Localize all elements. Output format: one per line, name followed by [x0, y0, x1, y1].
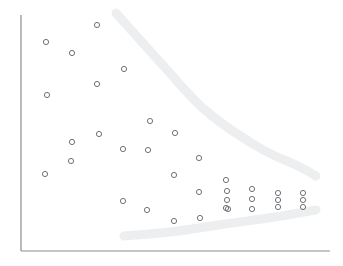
- data-point: [68, 158, 73, 163]
- data-point: [94, 81, 99, 86]
- data-point: [96, 131, 101, 136]
- data-point: [275, 204, 280, 209]
- data-point: [69, 50, 74, 55]
- data-point: [223, 177, 228, 182]
- data-point: [172, 130, 177, 135]
- data-point: [197, 215, 202, 220]
- data-point: [249, 206, 254, 211]
- data-point: [275, 197, 280, 202]
- data-point: [69, 139, 74, 144]
- lower-envelope: [124, 210, 316, 236]
- data-point: [120, 198, 125, 203]
- data-point: [196, 155, 201, 160]
- data-point: [171, 218, 176, 223]
- data-point: [300, 190, 305, 195]
- data-point: [300, 197, 305, 202]
- funnel-plot-figure: [0, 0, 343, 266]
- data-point: [44, 92, 49, 97]
- plot-canvas: [0, 0, 343, 266]
- data-point: [144, 207, 149, 212]
- data-point: [43, 39, 48, 44]
- data-point: [121, 66, 126, 71]
- data-point: [224, 197, 229, 202]
- data-point-layer: [42, 22, 305, 223]
- data-point: [275, 190, 280, 195]
- data-point: [145, 147, 150, 152]
- envelope-annotation-layer: [116, 13, 316, 236]
- data-point: [249, 186, 254, 191]
- data-point: [224, 188, 229, 193]
- data-point: [120, 146, 125, 151]
- data-point: [249, 196, 254, 201]
- data-point: [147, 118, 152, 123]
- data-point: [94, 22, 99, 27]
- data-point: [42, 171, 47, 176]
- data-point: [196, 189, 201, 194]
- data-point: [171, 172, 176, 177]
